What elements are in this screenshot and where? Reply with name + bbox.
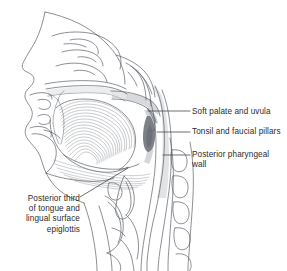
mandible-symphysis (32, 134, 56, 173)
trachea-outline (121, 240, 134, 271)
lower-teeth-outline (38, 115, 51, 125)
cricoid-arytenoid-outline (107, 253, 121, 271)
epiglottis-outline (116, 176, 135, 219)
neck-anterior-contour (84, 203, 97, 271)
facial-profile-outline (22, 12, 84, 203)
eustachian-detail (128, 72, 137, 86)
label-tonsil-and-faucial-pillars: Tonsil and faucial pillars (192, 127, 287, 137)
hyoid-bone-outline (108, 183, 122, 200)
label-posterior-third-of-tongue: Posterior third of tongue and lingual su… (4, 194, 80, 235)
thyroid-cartilage-inner (108, 202, 121, 243)
tongue-surface-hatching (60, 101, 135, 164)
inferior-turbinate (56, 63, 107, 82)
neck-front-line-2 (99, 206, 112, 271)
tongue-body-outline (50, 120, 128, 172)
tongue-base-striations (54, 160, 150, 189)
turbinate-detail-1 (78, 57, 96, 62)
laryngeal-vestibule (126, 215, 139, 259)
lower-lip-outline (30, 127, 51, 138)
turbinate-detail-2 (74, 70, 95, 75)
cranium-outline (45, 12, 125, 84)
upper-teeth-outline (38, 99, 51, 109)
nasal-septum-detail (64, 44, 86, 47)
epiglottis-inner (126, 182, 131, 215)
label-soft-palate-and-uvula: Soft palate and uvula (192, 107, 286, 117)
label-posterior-pharyngeal-wall: Posterior pharyngeal wall (192, 150, 286, 170)
tongue-dorsum-outline (56, 99, 136, 170)
cervical-vertebrae-outline (171, 150, 191, 271)
anatomy-figure: Soft palate and uvula Tonsil and faucial… (0, 0, 287, 271)
